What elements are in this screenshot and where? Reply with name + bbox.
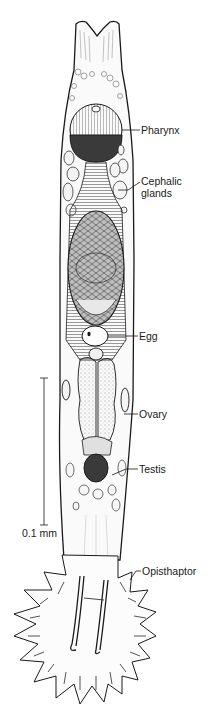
scale-bar-label: 0.1 mm [22, 527, 57, 539]
uterus-sac [68, 211, 124, 325]
worm-illustration [0, 0, 214, 712]
label-ovary: Ovary [139, 408, 167, 420]
pharynx-organ [70, 104, 122, 162]
label-cephalic-glands: Cephalic glands [141, 175, 182, 199]
opisthaptor-organ [14, 555, 156, 704]
scale-bar [40, 378, 48, 525]
egg-organ [82, 326, 108, 346]
label-opisthaptor: Opisthaptor [142, 565, 196, 577]
label-testis: Testis [139, 463, 166, 475]
label-egg: Egg [139, 330, 158, 342]
label-pharynx: Pharynx [141, 124, 180, 136]
